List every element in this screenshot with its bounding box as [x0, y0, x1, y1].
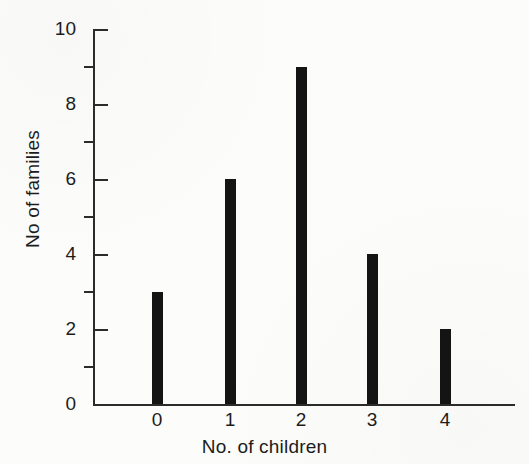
bar-category-0 [152, 292, 163, 405]
x-tick-label-3: 3 [352, 409, 392, 431]
bar-chart-figure: No of families 10 8 6 4 2 0 0 1 2 3 4 No… [0, 0, 529, 464]
y-tick-label-4: 4 [30, 243, 76, 265]
y-minor-tick-7 [84, 141, 94, 143]
y-major-tick-4 [95, 254, 108, 256]
bar-category-4 [440, 329, 451, 404]
x-tick-label-4: 4 [425, 409, 465, 431]
x-axis-line [93, 404, 515, 406]
x-tick-label-0: 0 [137, 409, 177, 431]
y-minor-tick-9 [84, 66, 94, 68]
y-major-tick-0 [95, 404, 108, 406]
y-tick-label-0: 0 [30, 393, 76, 415]
x-axis-label: No. of children [0, 436, 529, 458]
y-minor-tick-1 [84, 366, 94, 368]
x-tick-label-1: 1 [210, 409, 250, 431]
y-tick-label-8: 8 [30, 93, 76, 115]
x-tick-label-2: 2 [281, 409, 321, 431]
bar-category-3 [367, 254, 378, 404]
y-tick-label-2: 2 [30, 318, 76, 340]
y-major-tick-2 [95, 329, 108, 331]
y-major-tick-10 [95, 29, 108, 31]
y-major-tick-8 [95, 104, 108, 106]
bar-category-1 [225, 179, 236, 404]
y-minor-tick-3 [84, 291, 94, 293]
y-tick-label-10: 10 [30, 18, 76, 40]
y-tick-label-6: 6 [30, 168, 76, 190]
y-major-tick-6 [95, 179, 108, 181]
y-minor-tick-5 [84, 216, 94, 218]
bar-category-2 [296, 67, 307, 405]
